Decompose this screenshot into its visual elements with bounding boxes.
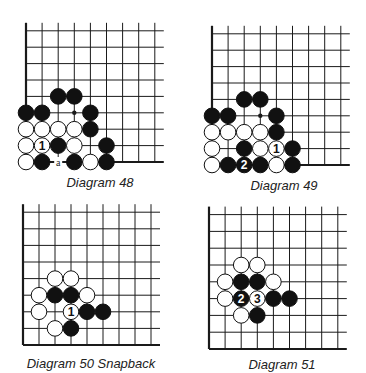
- diagram-caption: Diagram 51: [248, 357, 315, 372]
- black-stone-icon: [266, 291, 282, 307]
- move-number-2: 2: [238, 292, 245, 306]
- white-stone-icon: [233, 257, 249, 273]
- white-stone-icon: [233, 308, 249, 324]
- go-board-51: 23: [0, 0, 366, 373]
- black-stone-icon: [249, 308, 265, 324]
- black-stone-icon: [249, 274, 265, 290]
- move-number-3: 3: [254, 292, 261, 306]
- white-stone-icon: [217, 274, 233, 290]
- white-stone-icon: [217, 291, 233, 307]
- black-stone-icon: [282, 291, 298, 307]
- white-stone-icon: [249, 257, 265, 273]
- white-stone-icon: [266, 274, 282, 290]
- black-stone-icon: [233, 274, 249, 290]
